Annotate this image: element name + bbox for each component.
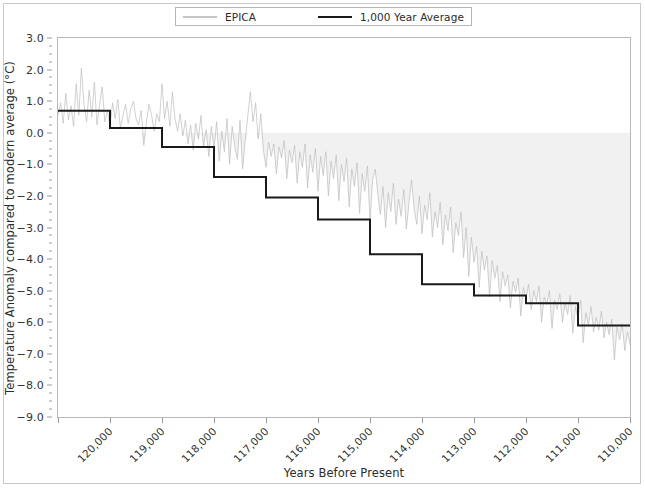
y-minor-tick-mark: [49, 369, 52, 370]
x-tick-mark: [526, 418, 527, 423]
chart-figure: EPICA 1,000 Year Average Temperature Ano…: [0, 0, 645, 488]
y-minor-tick-mark: [49, 148, 52, 149]
y-tick-mark: [47, 353, 52, 354]
y-tick-mark: [47, 227, 52, 228]
y-minor-tick-mark: [49, 219, 52, 220]
x-tick-mark: [474, 418, 475, 423]
x-tick-mark: [110, 418, 111, 423]
y-minor-tick-mark: [49, 401, 52, 402]
y-tick-label: −6.0: [16, 316, 44, 329]
x-axis-title: Years Before Present: [57, 466, 631, 480]
y-minor-tick-mark: [49, 345, 52, 346]
legend-label-epica: EPICA: [225, 11, 256, 23]
y-minor-tick-mark: [49, 45, 52, 46]
y-minor-tick-mark: [49, 330, 52, 331]
y-tick-label: 1.0: [26, 95, 44, 108]
y-tick-mark: [47, 164, 52, 165]
y-minor-tick-mark: [49, 156, 52, 157]
x-tick-mark: [370, 418, 371, 423]
y-minor-tick-mark: [49, 235, 52, 236]
x-axis-ticks: 120,000119,000118,000117,000116,000115,0…: [57, 418, 631, 466]
y-minor-tick-mark: [49, 377, 52, 378]
x-tick-mark: [214, 418, 215, 423]
y-tick-mark: [47, 259, 52, 260]
x-tick-mark: [630, 418, 631, 423]
y-tick-label: −4.0: [16, 253, 44, 266]
y-minor-tick-mark: [49, 203, 52, 204]
x-tick-mark: [266, 418, 267, 423]
y-tick-mark: [47, 69, 52, 70]
y-minor-tick-mark: [49, 124, 52, 125]
x-tick-label: 112,000: [491, 425, 531, 465]
y-tick-label: −1.0: [16, 158, 44, 171]
plot-area: [57, 37, 631, 418]
y-tick-mark: [47, 417, 52, 418]
y-minor-tick-mark: [49, 172, 52, 173]
x-tick-label: 117,000: [231, 425, 271, 465]
y-tick-label: −5.0: [16, 284, 44, 297]
chart-canvas: [58, 38, 630, 417]
y-minor-tick-mark: [49, 116, 52, 117]
y-tick-label: −3.0: [16, 221, 44, 234]
y-minor-tick-mark: [49, 180, 52, 181]
legend-label-average: 1,000 Year Average: [360, 11, 464, 23]
legend-entry-epica: EPICA: [183, 8, 256, 25]
y-tick-label: 0.0: [26, 126, 44, 139]
x-tick-label: 110,000: [595, 425, 635, 465]
y-minor-tick-mark: [49, 393, 52, 394]
y-minor-tick-mark: [49, 140, 52, 141]
x-tick-mark: [162, 418, 163, 423]
y-minor-tick-mark: [49, 251, 52, 252]
y-minor-tick-mark: [49, 77, 52, 78]
y-minor-tick-mark: [49, 109, 52, 110]
y-tick-mark: [47, 38, 52, 39]
y-axis-ticks: 3.02.01.00.0−1.0−2.0−3.0−4.0−5.0−6.0−7.0…: [0, 37, 52, 418]
y-minor-tick-mark: [49, 314, 52, 315]
y-tick-mark: [47, 290, 52, 291]
x-tick-label: 115,000: [335, 425, 375, 465]
x-tick-label: 120,000: [75, 425, 115, 465]
y-minor-tick-mark: [49, 282, 52, 283]
y-minor-tick-mark: [49, 306, 52, 307]
y-tick-label: 2.0: [26, 63, 44, 76]
y-tick-label: −7.0: [16, 347, 44, 360]
y-minor-tick-mark: [49, 93, 52, 94]
y-tick-label: −9.0: [16, 411, 44, 424]
y-tick-mark: [47, 195, 52, 196]
x-tick-label: 116,000: [283, 425, 323, 465]
x-tick-label: 119,000: [127, 425, 167, 465]
y-minor-tick-mark: [49, 53, 52, 54]
fill-between-shading: [58, 133, 630, 360]
y-minor-tick-mark: [49, 188, 52, 189]
chart-legend: EPICA 1,000 Year Average: [175, 7, 472, 26]
y-minor-tick-mark: [49, 361, 52, 362]
y-tick-mark: [47, 322, 52, 323]
y-tick-label: 3.0: [26, 32, 44, 45]
y-tick-mark: [47, 385, 52, 386]
x-tick-label: 114,000: [387, 425, 427, 465]
x-tick-label: 113,000: [439, 425, 479, 465]
y-minor-tick-mark: [49, 85, 52, 86]
y-minor-tick-mark: [49, 61, 52, 62]
y-minor-tick-mark: [49, 274, 52, 275]
y-minor-tick-mark: [49, 266, 52, 267]
x-tick-mark: [578, 418, 579, 423]
y-minor-tick-mark: [49, 211, 52, 212]
y-minor-tick-mark: [49, 243, 52, 244]
x-tick-mark: [318, 418, 319, 423]
x-tick-label: 111,000: [543, 425, 583, 465]
x-tick-mark: [58, 418, 59, 423]
x-tick-label: 118,000: [179, 425, 219, 465]
y-minor-tick-mark: [49, 298, 52, 299]
y-tick-label: −2.0: [16, 189, 44, 202]
y-tick-mark: [47, 132, 52, 133]
y-tick-mark: [47, 101, 52, 102]
y-minor-tick-mark: [49, 338, 52, 339]
y-tick-label: −8.0: [16, 379, 44, 392]
x-tick-mark: [422, 418, 423, 423]
y-minor-tick-mark: [49, 409, 52, 410]
legend-entry-average: 1,000 Year Average: [318, 8, 464, 25]
